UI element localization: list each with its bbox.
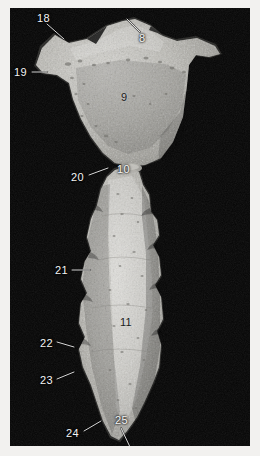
label-20: 20 <box>71 172 84 183</box>
photographic-plate: 1881992010211122232425 <box>10 8 250 446</box>
label-18: 18 <box>37 13 50 24</box>
label-21: 21 <box>55 265 68 276</box>
label-25: 25 <box>115 415 128 426</box>
label-23: 23 <box>40 375 53 386</box>
label-24: 24 <box>66 428 79 439</box>
plate-page: 1881992010211122232425 <box>0 0 260 456</box>
plate-image-area: 1881992010211122232425 <box>10 8 250 446</box>
label-10: 10 <box>117 164 130 175</box>
label-22: 22 <box>40 338 53 349</box>
label-11: 11 <box>120 317 132 328</box>
label-9: 9 <box>121 92 127 103</box>
label-19: 19 <box>14 67 27 78</box>
label-8: 8 <box>139 33 145 44</box>
